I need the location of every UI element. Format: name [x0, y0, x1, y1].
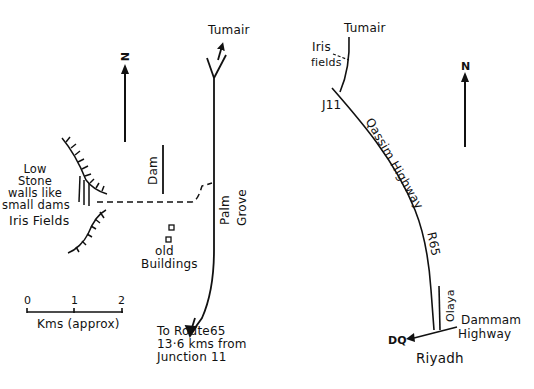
qassim-highway	[332, 88, 434, 330]
route-note-line: Junction 11	[157, 351, 247, 364]
dam-label: Dam	[147, 156, 160, 185]
grove-label: Grove	[236, 189, 249, 226]
dammam-highway	[414, 327, 457, 338]
dashed-track	[97, 183, 212, 202]
route-note: To Route65 13·6 kms from Junction 11	[157, 325, 247, 364]
scale-tick-2: 2	[118, 294, 125, 307]
old-building-icon	[169, 225, 174, 230]
north-arrow-icon-left	[121, 64, 129, 142]
old-building-icon	[166, 237, 171, 242]
scale-tick-1: 1	[71, 294, 78, 307]
olaya-label: Olaya	[444, 289, 457, 322]
fields-label-right: fields	[311, 56, 342, 69]
tumair-label-left: Tumair	[208, 24, 250, 37]
dammam-label: Dammam	[461, 314, 521, 327]
olaya-road	[439, 286, 440, 330]
buildings-label: Buildings	[141, 258, 198, 271]
palm-label: Palm	[219, 195, 232, 225]
highway-label: Highway	[458, 328, 511, 341]
scale-bar	[27, 308, 123, 313]
wadi-lower-bank	[68, 210, 106, 253]
iris-label-right: Iris	[312, 41, 331, 54]
north-label-right: N	[461, 60, 470, 73]
main-road	[186, 46, 226, 336]
wadi-upper-bank	[62, 137, 107, 206]
iris-fields-label: Iris Fields	[9, 214, 69, 227]
tumair-label-right: Tumair	[344, 22, 386, 35]
hand-drawn-map: N Tumair Low Stone walls like small dams…	[0, 0, 534, 389]
riyadh-label: Riyadh	[416, 352, 464, 365]
low-stone-walls-label: Low Stone walls like small dams	[2, 163, 68, 211]
junction-label: J11	[322, 99, 341, 112]
dq-label: DQ	[388, 334, 407, 347]
north-arrow-icon-right	[461, 72, 469, 147]
label-line: small dams	[2, 199, 68, 211]
scale-tick-0: 0	[24, 294, 31, 307]
north-label-left: N	[119, 52, 132, 61]
arrow-head-icon	[406, 333, 415, 342]
scale-unit-label: Kms (approx)	[37, 318, 120, 331]
